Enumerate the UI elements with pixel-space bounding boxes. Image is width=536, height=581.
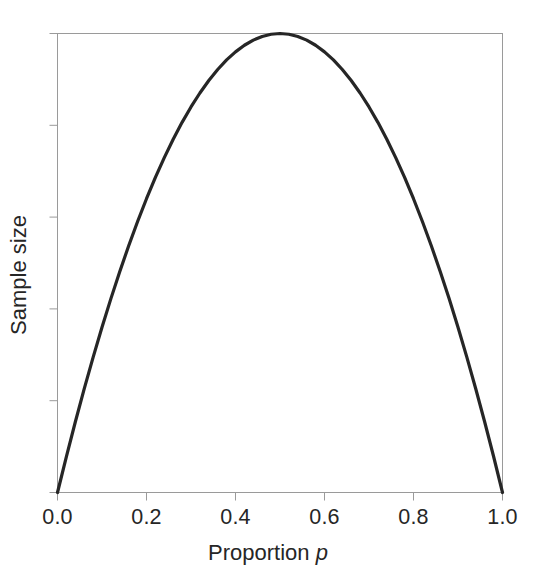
x-tick-label-2: 0.4 [220,505,251,530]
x-tick-label-4: 0.8 [398,505,429,530]
x-tick-label-3: 0.6 [309,505,340,530]
x-tick-label-1: 0.2 [131,505,162,530]
y-axis-title: Sample size [6,145,32,405]
chart-figure: 0.00.20.40.60.81.0 Proportion p Sample s… [0,0,536,581]
x-axis-title-symbol: p [316,540,328,565]
x-axis-ticks [58,493,503,501]
data-curve-sample-size [58,34,503,493]
x-tick-label-0: 0.0 [42,505,73,530]
x-axis-title-prefix: Proportion [208,540,310,565]
plot-area [0,0,536,581]
x-tick-label-5: 1.0 [487,505,518,530]
x-axis-title: Proportion p [0,540,536,566]
y-axis-ticks [50,34,58,493]
